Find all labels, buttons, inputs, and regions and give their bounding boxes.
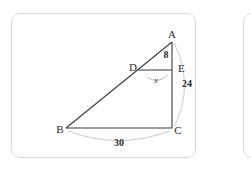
- adjacent-card-edge: [243, 13, 251, 158]
- screenshot-stage: A B C D E 8 24 30 x: [0, 0, 251, 170]
- geometry-figure: A B C D E 8 24 30 x: [11, 13, 196, 158]
- angle-label-x: x: [153, 75, 158, 85]
- measure-label-ec: 24: [182, 78, 192, 89]
- vertex-label-b: B: [56, 123, 63, 135]
- segment-ab: [66, 42, 172, 128]
- vertex-label-c: C: [174, 124, 181, 136]
- measure-label-bc: 30: [114, 137, 124, 148]
- measure-label-ae: 8: [164, 49, 169, 60]
- vertex-label-e: E: [178, 62, 185, 74]
- vertex-label-d: D: [129, 61, 137, 73]
- vertex-label-a: A: [168, 28, 176, 40]
